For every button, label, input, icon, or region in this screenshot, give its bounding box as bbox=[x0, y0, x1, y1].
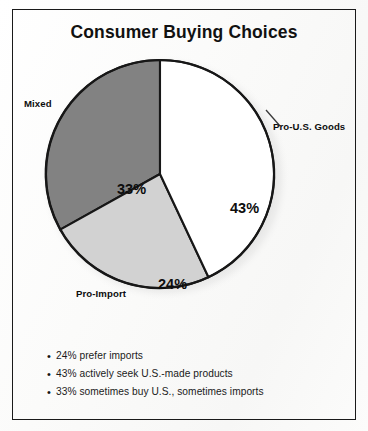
list-item-text: 33% sometimes buy U.S., sometimes import… bbox=[56, 385, 264, 399]
bullet-dot-icon: • bbox=[47, 349, 56, 363]
bullet-dot-icon: • bbox=[47, 385, 56, 399]
page-title: Consumer Buying Choices bbox=[0, 22, 368, 43]
list-item-text: 43% actively seek U.S.-made products bbox=[56, 367, 233, 381]
notes-list: • 24% prefer imports • 43% actively seek… bbox=[47, 349, 337, 403]
slice-label-pro-us-goods: Pro-U.S. Goods bbox=[273, 121, 345, 132]
slice-value-mixed: 33% bbox=[117, 181, 146, 197]
slice-label-pro-import: Pro-Import bbox=[76, 288, 126, 299]
slice-label-mixed: Mixed bbox=[24, 98, 52, 109]
chart-page: Consumer Buying Choices 43 bbox=[0, 0, 368, 431]
list-item-text: 24% prefer imports bbox=[56, 349, 143, 363]
bullet-dot-icon: • bbox=[47, 367, 56, 381]
list-item: • 43% actively seek U.S.-made products bbox=[47, 367, 337, 382]
slice-value-pro-import: 24% bbox=[158, 276, 187, 292]
list-item: • 24% prefer imports bbox=[47, 349, 337, 364]
list-item: • 33% sometimes buy U.S., sometimes impo… bbox=[47, 385, 337, 400]
pie-chart: 43% 24% 33% bbox=[34, 50, 304, 308]
slice-value-pro-us-goods: 43% bbox=[230, 200, 259, 216]
pie-chart-svg bbox=[34, 50, 304, 308]
